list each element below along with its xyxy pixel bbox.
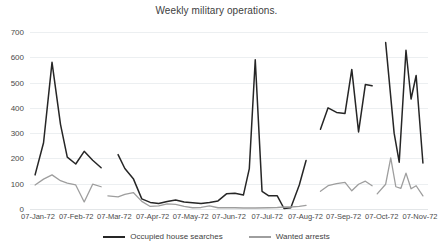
x-tick-label: 07-Jun-72	[212, 212, 246, 221]
x-tick-label: 07-Jul-72	[252, 212, 283, 221]
y-tick-label: 700	[11, 28, 24, 37]
y-tick-label: 400	[11, 103, 24, 112]
series-line	[35, 62, 101, 175]
legend-label: Occupied house searches	[130, 232, 223, 241]
legend-label: Wanted arrests	[276, 232, 330, 241]
series-line	[35, 175, 101, 202]
legend-entry[interactable]: Occupied house searches	[103, 232, 223, 241]
x-axis: 07-Jan-7207-Feb-7207-Mar-7207-Apr-7207-M…	[0, 212, 433, 226]
series-line	[377, 158, 423, 196]
series-line	[386, 43, 423, 163]
y-axis: 0100200300400500600700	[0, 32, 28, 209]
series-layer	[30, 32, 428, 209]
x-tick-label: 07-Oct-72	[365, 212, 398, 221]
x-tick-label: 07-Nov-72	[402, 212, 437, 221]
y-tick-label: 200	[11, 154, 24, 163]
series-line	[320, 181, 372, 191]
x-tick-label: 07-May-72	[173, 212, 209, 221]
x-tick-label: 07-Mar-72	[97, 212, 132, 221]
y-tick-label: 100	[11, 179, 24, 188]
chart-title: Weekly military operations.	[0, 5, 433, 16]
x-tick-label: 07-Apr-72	[136, 212, 169, 221]
x-tick-label: 07-Jan-72	[21, 212, 55, 221]
series-line	[320, 69, 372, 131]
legend-line-icon	[103, 236, 125, 238]
y-tick-label: 500	[11, 78, 24, 87]
series-line	[108, 193, 306, 208]
x-tick-label: 07-Aug-72	[288, 212, 323, 221]
legend-line-icon	[249, 236, 271, 238]
plot-area	[30, 32, 428, 209]
gridline-0	[30, 209, 428, 210]
chart-legend: Occupied house searchesWanted arrests	[0, 232, 433, 241]
y-tick-label: 600	[11, 53, 24, 62]
series-line	[118, 60, 306, 209]
y-tick-label: 300	[11, 129, 24, 138]
legend-entry[interactable]: Wanted arrests	[249, 232, 330, 241]
x-tick-label: 07-Feb-72	[59, 212, 94, 221]
x-tick-label: 07-Sep-72	[326, 212, 361, 221]
